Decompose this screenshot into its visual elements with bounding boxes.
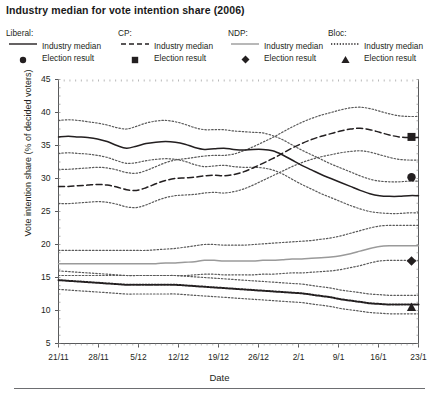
series-line: [59, 136, 419, 196]
election-result-marker: [407, 256, 417, 266]
y-axis-tick-label: 15: [25, 272, 51, 282]
election-result-marker: [407, 173, 415, 181]
series-line: [59, 280, 419, 304]
figure-container: Industry median for vote intention share…: [0, 0, 439, 395]
y-axis-tick-label: 20: [25, 239, 51, 249]
y-axis-tick-label: 10: [25, 305, 51, 315]
x-axis-tick-label: 23/1: [394, 352, 439, 362]
series-line: [59, 260, 419, 275]
series-line: [59, 225, 419, 250]
x-axis-title: Date: [0, 372, 439, 383]
y-axis-tick-label: 35: [25, 140, 51, 150]
plot-area: [0, 0, 439, 395]
y-axis-tick-label: 30: [25, 173, 51, 183]
bottom-divider: [14, 388, 425, 389]
y-axis-tick-label: 5: [25, 338, 51, 348]
election-result-marker: [408, 133, 416, 141]
y-axis-tick-label: 40: [25, 107, 51, 117]
y-axis-tick-label: 45: [25, 74, 51, 84]
series-line: [59, 153, 419, 214]
series-line: [59, 246, 419, 264]
series-line: [59, 107, 419, 173]
y-axis-tick-label: 25: [25, 206, 51, 216]
